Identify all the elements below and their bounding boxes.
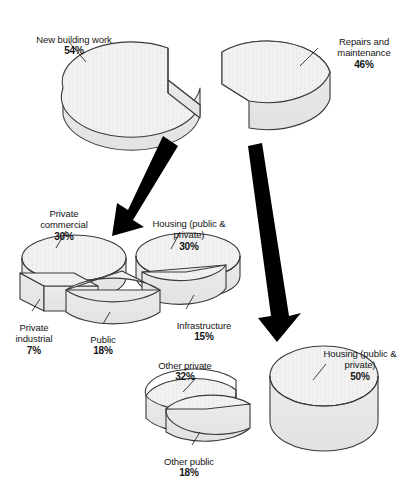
pie-repairs-and-maintenance [222,41,330,130]
pie-slice-other-public [166,395,250,441]
label-other-public: Other public 18% [140,444,238,488]
diagram-canvas: New building work 54% Repairs and mainte… [0,0,416,488]
label-other-private: Other private 32% [136,348,234,394]
label-new-building-work: New building work 54% [14,22,134,68]
label-repairs-and-maintenance: Repairs and maintenance 46% [316,24,412,82]
label-private-commercial: Private commercial 30% [14,196,114,254]
label-public: Public 18% [72,322,134,368]
label-housing-new-build: Housing (public & private) 30% [134,206,244,264]
label-private-industrial: Private industrial 7% [0,310,68,368]
arrow-repairs-to-breakdown [248,143,301,342]
label-housing-repairs: Housing (public & private) 50% [308,336,412,394]
